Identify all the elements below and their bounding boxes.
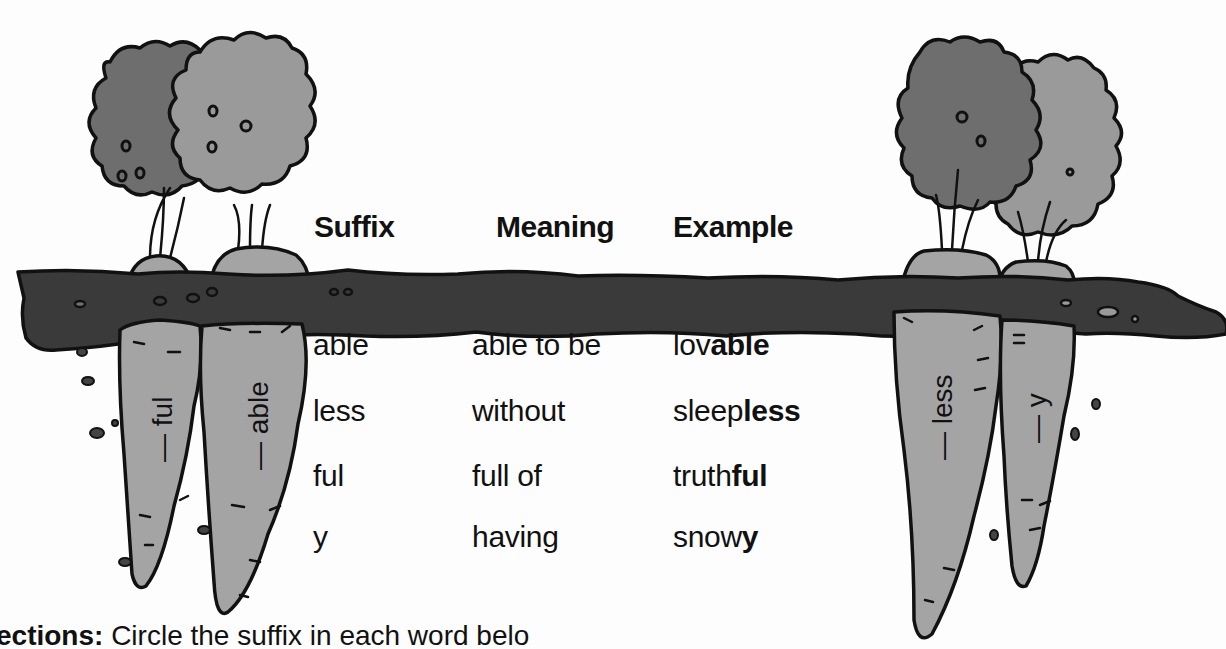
row-example: lovable bbox=[673, 328, 769, 362]
row-suffix: y bbox=[313, 520, 328, 554]
leaf-top-light-left bbox=[169, 32, 315, 192]
row-suffix: less bbox=[313, 394, 365, 428]
row-meaning: without bbox=[472, 394, 565, 428]
header-meaning: Meaning bbox=[496, 210, 614, 244]
row-suffix: able bbox=[313, 328, 369, 362]
row-suffix: ful bbox=[313, 459, 344, 493]
header-suffix: Suffix bbox=[314, 210, 394, 244]
row-meaning: full of bbox=[472, 459, 542, 493]
carrot-illustration: — ful — able — less — y bbox=[0, 0, 1226, 649]
row-example: sleepless bbox=[673, 394, 800, 428]
carrot-label-y: — y bbox=[1021, 393, 1052, 443]
row-example: truthful bbox=[673, 459, 767, 493]
carrot-label-able: — able bbox=[243, 381, 274, 470]
row-meaning: able to be bbox=[472, 328, 601, 362]
carrot-label-ful: — ful bbox=[147, 397, 178, 462]
carrot-label-less: — less bbox=[927, 374, 958, 460]
row-meaning: having bbox=[472, 520, 559, 554]
row-example: snowy bbox=[673, 520, 758, 554]
header-example: Example bbox=[673, 210, 793, 244]
leaf-top-dark-right bbox=[896, 37, 1040, 209]
directions-text: ections: Circle the suffix in each word … bbox=[0, 620, 529, 649]
carrot-body-y bbox=[1000, 320, 1074, 587]
